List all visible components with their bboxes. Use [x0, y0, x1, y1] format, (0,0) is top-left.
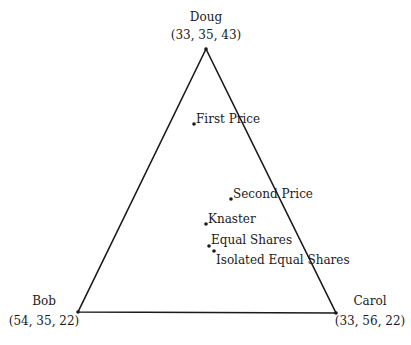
label-equal-shares: Equal Shares — [211, 233, 292, 247]
vertex-doug-dot — [204, 47, 208, 51]
triangle-outline — [78, 49, 336, 313]
vertex-bob-coords: (54, 35, 22) — [9, 314, 79, 328]
vertex-doug-coords: (33, 35, 43) — [171, 28, 241, 42]
vertex-bob-name: Bob — [32, 294, 56, 308]
vertex-carol-name: Carol — [353, 294, 386, 308]
label-knaster: Knaster — [208, 212, 256, 226]
vertex-doug-name: Doug — [190, 10, 222, 24]
label-isolated-equal-shares: Isolated Equal Shares — [216, 253, 350, 267]
vertex-carol-coords: (33, 56, 22) — [335, 314, 405, 328]
label-first-price: First Price — [196, 112, 260, 126]
simplex-triangle — [0, 0, 411, 345]
label-second-price: Second Price — [233, 187, 313, 201]
